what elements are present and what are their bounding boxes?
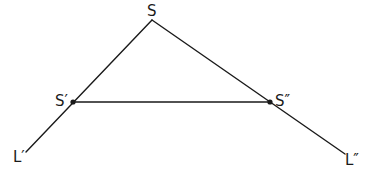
line-s-to-l-prime	[26, 20, 152, 152]
diagram-canvas: S S′ S″ L′ L″	[0, 0, 368, 172]
label-s-prime: S′	[55, 92, 69, 110]
label-l-double-prime: L″	[345, 151, 359, 169]
line-s-to-l-double-prime	[152, 20, 345, 154]
label-l-prime: L′	[13, 148, 25, 166]
point-s-prime	[70, 99, 75, 104]
label-s-double-prime: S″	[275, 92, 291, 110]
point-s-double-prime	[267, 99, 272, 104]
label-s: S	[147, 2, 157, 20]
